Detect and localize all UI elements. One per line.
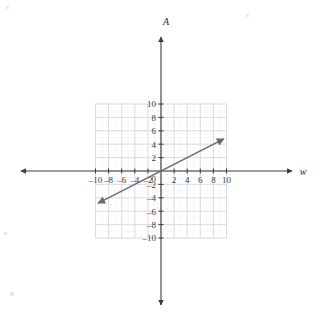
x-tick-label: 10 — [222, 175, 232, 185]
x-tick-label: 2 — [172, 175, 177, 185]
coordinate-plane-svg: –10–8–6–4–2246810 108642–2–4–6–8–10 0 w … — [0, 0, 324, 334]
y-tick-label: –4 — [146, 193, 157, 203]
graph-figure: –10–8–6–4–2246810 108642–2–4–6–8–10 0 w … — [0, 0, 324, 334]
scan-speck — [4, 232, 7, 235]
scan-speck — [6, 6, 9, 9]
axis-lines — [21, 37, 292, 305]
x-tick-label: 6 — [198, 175, 203, 185]
scan-speck — [246, 14, 249, 17]
y-axis-name-label: A — [162, 16, 170, 27]
y-tick-label: 10 — [147, 99, 157, 109]
y-tick-label: 6 — [152, 126, 157, 136]
x-axis-name-label: w — [300, 166, 307, 177]
x-axis-tick-labels: –10–8–6–4–2246810 — [88, 175, 232, 185]
x-tick-label: 8 — [211, 175, 216, 185]
x-tick-label: –8 — [103, 175, 114, 185]
y-tick-label: –10 — [142, 233, 157, 243]
y-tick-label: 2 — [152, 153, 157, 163]
y-tick-label: 4 — [152, 140, 157, 150]
x-tick-label: –6 — [116, 175, 127, 185]
x-tick-label: 4 — [185, 175, 190, 185]
x-tick-label: –4 — [129, 175, 140, 185]
x-tick-label: –10 — [88, 175, 103, 185]
y-tick-label: 8 — [152, 113, 157, 123]
y-tick-label: –8 — [146, 220, 157, 230]
y-tick-label: –6 — [146, 207, 157, 217]
scan-speck — [10, 292, 14, 296]
